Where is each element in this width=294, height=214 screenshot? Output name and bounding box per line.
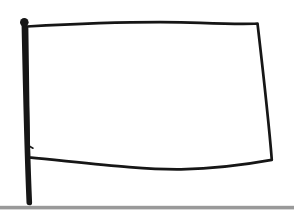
- flagpole-finial-knob: [20, 18, 29, 27]
- white-flag-sketch: [0, 0, 294, 214]
- flag: [27, 22, 272, 169]
- ground-line: [0, 206, 294, 210]
- sketch-canvas: [0, 0, 294, 214]
